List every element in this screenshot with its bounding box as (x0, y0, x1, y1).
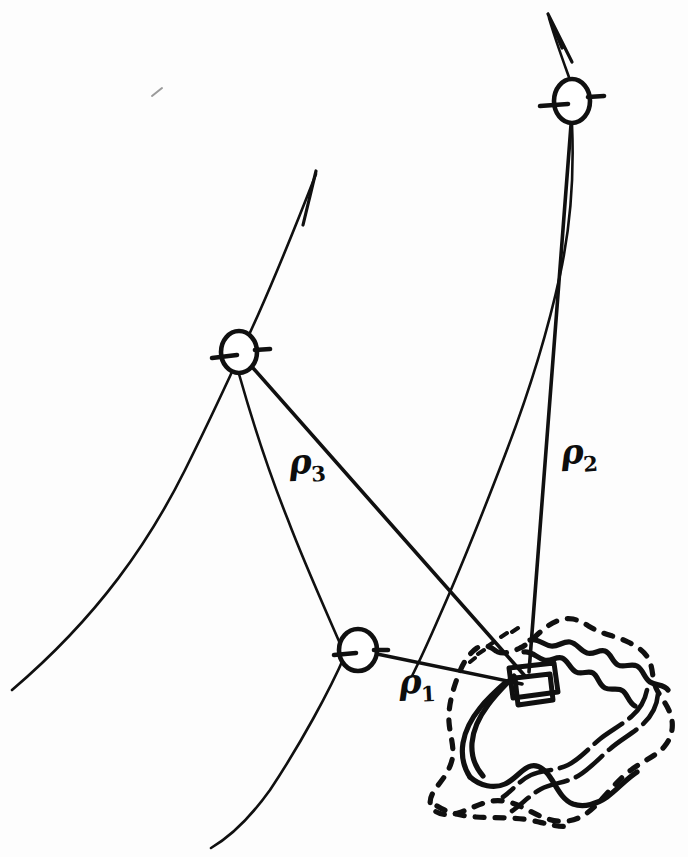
satellite-body-icon (554, 79, 590, 123)
satellite-ranging-figure: ρ1 ρ2 ρ3 (0, 0, 688, 857)
orbit-left (12, 171, 316, 690)
label-rho2-subscript: 2 (582, 451, 598, 477)
range-line-rho2 (529, 125, 571, 672)
satellite-mid-left[interactable] (212, 331, 270, 373)
ground-station[interactable] (509, 663, 558, 705)
range-line-rho3 (253, 368, 525, 676)
island-coast-west-bay (462, 682, 506, 777)
satellite-upper-right[interactable] (540, 79, 604, 123)
label-rho2-symbol: ρ (559, 431, 584, 472)
orbit-left-arc (12, 174, 316, 690)
orbit-left-arrow-icon (303, 171, 316, 225)
label-rho1-subscript: 1 (420, 681, 436, 707)
satellite-panel-left-icon (334, 653, 356, 655)
satellite-panel-right-icon (255, 349, 270, 350)
label-rho3-subscript: 3 (310, 461, 326, 487)
label-rho2: ρ2 (560, 433, 599, 476)
island-coastline-outer (430, 619, 672, 822)
orbit-left-lower (211, 374, 345, 848)
satellite-body-icon (221, 331, 257, 373)
island-coast-south-band (437, 806, 571, 826)
satellite-lower[interactable] (334, 629, 388, 671)
satellite-panel-right-icon (588, 96, 604, 97)
satellite-body-icon (339, 629, 377, 671)
satellite-panel-left-icon (540, 104, 568, 106)
figure-canvas (0, 0, 688, 857)
label-rho3-symbol: ρ (287, 441, 312, 482)
station-square-inner-icon (515, 674, 553, 705)
island-landmass (430, 619, 672, 827)
label-rho1-symbol: ρ (398, 661, 423, 702)
paper-smudge (152, 88, 162, 96)
label-rho3: ρ3 (288, 443, 327, 486)
island-coast-inner-jagged (524, 652, 635, 706)
orbit-left-lower-arc (211, 374, 345, 848)
island-surf-ticks (470, 628, 518, 662)
satellite-panel-left-icon (212, 355, 237, 358)
label-rho1: ρ1 (398, 663, 436, 706)
